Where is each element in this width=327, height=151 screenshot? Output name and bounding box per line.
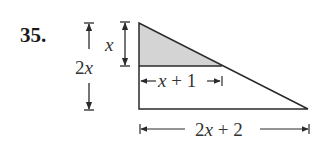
small-height-label: x bbox=[104, 34, 114, 55]
small-base-label: x + 1 bbox=[157, 70, 196, 91]
problem-number: 35. bbox=[20, 23, 46, 47]
small-height-dimension: x bbox=[104, 22, 130, 66]
total-height-label: 2x bbox=[75, 57, 94, 78]
total-base-label: 2x + 2 bbox=[195, 119, 243, 140]
similar-triangles-figure: 35. 2x x x + 1 2x + 2 bbox=[0, 0, 327, 151]
total-base-dimension: 2x + 2 bbox=[140, 119, 309, 140]
total-height-dimension: 2x bbox=[75, 23, 94, 110]
small-base-dimension: x + 1 bbox=[141, 70, 222, 91]
